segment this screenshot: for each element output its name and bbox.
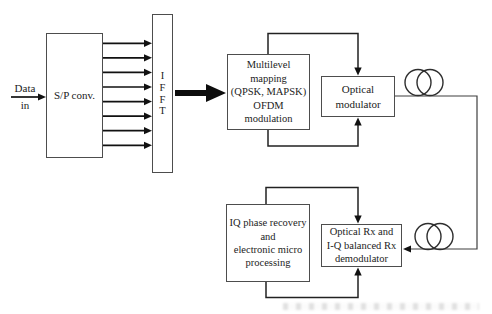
optical-rx-demodulator-label: Optical Rx and I-Q balanced Rx demodulat…: [327, 225, 396, 265]
fiber-coil-icon: [415, 224, 453, 250]
optical-modulator-label: Optical modulator: [335, 82, 380, 110]
block-optical-modulator: Optical modulator: [321, 76, 395, 117]
multilevel-mapping-label: Multilevel mapping (QPSK, MAPSK) OFDM mo…: [231, 58, 306, 125]
parallel-data-arrows: [103, 40, 152, 149]
data-in-label-top: Data: [11, 82, 39, 94]
fiber-coil-icon: [405, 70, 443, 96]
data-in-label-bottom: in: [11, 99, 39, 111]
block-optical-rx-demodulator: Optical Rx and I-Q balanced Rx demodulat…: [321, 224, 402, 267]
ifft-label: I F F T: [159, 70, 165, 118]
iq-phase-recovery-label: IQ phase recovery and electronic micro p…: [230, 216, 307, 270]
block-diagram: Data in S/P conv. I F F T Multilevel map…: [0, 0, 492, 314]
block-multilevel-mapping: Multilevel mapping (QPSK, MAPSK) OFDM mo…: [227, 54, 310, 130]
fiber-link-wire: [393, 96, 477, 253]
block-ifft: I F F T: [152, 14, 173, 173]
block-sp-converter: S/P conv.: [46, 33, 103, 158]
sp-converter-label: S/P conv.: [54, 88, 95, 102]
ifft-output-thick-arrow: [175, 84, 226, 102]
block-iq-phase-recovery: IQ phase recovery and electronic micro p…: [226, 204, 310, 282]
